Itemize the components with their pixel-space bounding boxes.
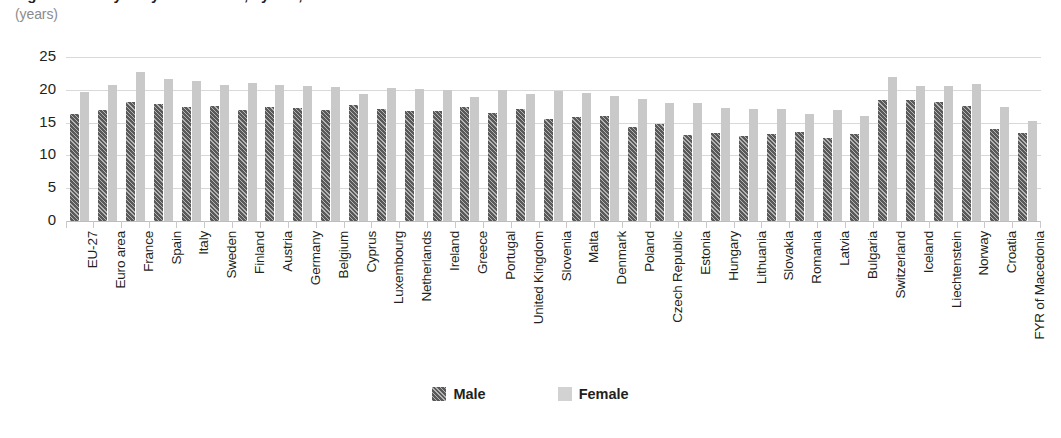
y-axis-tick-label: 0	[12, 211, 56, 228]
bar-male	[544, 119, 553, 221]
x-axis-tick	[735, 221, 763, 228]
bar-male	[767, 134, 776, 221]
bar-group	[1013, 57, 1041, 221]
bar-male	[433, 111, 442, 221]
legend-item-female[interactable]: Female	[558, 386, 629, 402]
bar-group	[400, 57, 428, 221]
x-axis-tick	[846, 221, 874, 228]
bar-female	[387, 88, 396, 221]
bar-group	[289, 57, 317, 221]
bar-male	[126, 102, 135, 221]
x-axis-label-cell: Greece	[456, 231, 484, 376]
y-axis-tick-label: 20	[12, 80, 56, 97]
bar-male	[572, 117, 581, 221]
bar-female	[108, 85, 117, 221]
x-axis-label-cell: United Kingdom	[512, 231, 540, 376]
x-axis-tick	[512, 221, 540, 228]
bar-female	[944, 86, 953, 221]
bar-male	[795, 132, 804, 221]
x-axis-tick	[150, 221, 178, 228]
x-axis-label-cell: Slovakia	[762, 231, 790, 376]
x-axis-label-cell: Finland	[233, 231, 261, 376]
bar-male	[850, 134, 859, 221]
bar-group	[902, 57, 930, 221]
x-axis-label-cell: Czech Republic	[651, 231, 679, 376]
bar-female	[80, 92, 89, 221]
bar-group	[623, 57, 651, 221]
x-axis-label-cell: Portugal	[484, 231, 512, 376]
bar-group	[456, 57, 484, 221]
bar-female	[916, 86, 925, 221]
x-axis-tick	[177, 221, 205, 228]
bar-male	[238, 110, 247, 221]
x-axis-label-cell: Slovenia	[540, 231, 568, 376]
bar-female	[582, 93, 591, 221]
bar-female	[610, 96, 619, 221]
x-axis-label-cell: France	[122, 231, 150, 376]
bar-group	[679, 57, 707, 221]
legend-item-male[interactable]: Male	[432, 386, 485, 402]
bar-group	[567, 57, 595, 221]
x-axis-label-cell: EU-27	[66, 231, 94, 376]
x-axis-tick	[958, 221, 986, 228]
bar-male	[293, 108, 302, 221]
bar-female	[443, 90, 452, 221]
bar-group	[512, 57, 540, 221]
y-axis-tick-label: 10	[12, 145, 56, 162]
bar-female	[860, 116, 869, 221]
bar-female	[749, 109, 758, 221]
bar-male	[349, 105, 358, 221]
bar-group	[651, 57, 679, 221]
bar-female	[164, 79, 173, 221]
x-axis-tick	[567, 221, 595, 228]
x-axis-label-cell: Liechtenstein	[930, 231, 958, 376]
x-axis-label-cell: Norway	[958, 231, 986, 376]
bar-female	[805, 114, 814, 221]
bar-male	[600, 116, 609, 221]
bar-group	[345, 57, 373, 221]
bar-female	[554, 91, 563, 221]
bar-female	[888, 77, 897, 221]
bar-group	[958, 57, 986, 221]
bar-female	[693, 103, 702, 221]
x-axis-tick	[428, 221, 456, 228]
x-axis-tick	[122, 221, 150, 228]
bar-male	[154, 104, 163, 221]
bar-female	[415, 89, 424, 222]
bar-female	[470, 97, 479, 221]
bar-group	[735, 57, 763, 221]
x-axis-ticks	[66, 221, 1041, 228]
bar-group	[484, 57, 512, 221]
x-axis-label-cell: Latvia	[818, 231, 846, 376]
bar-group	[846, 57, 874, 221]
male-hatched-swatch	[432, 387, 446, 401]
bar-female	[303, 86, 312, 221]
x-axis-label-cell: Austria	[261, 231, 289, 376]
x-axis-label-cell: Germany	[289, 231, 317, 376]
x-axis-tick	[484, 221, 512, 228]
x-axis-labels: EU-27Euro areaFranceSpainItalySwedenFinl…	[66, 231, 1041, 376]
bar-male	[1018, 133, 1027, 221]
x-axis-label-cell: Estonia	[679, 231, 707, 376]
x-axis-label-cell: Poland	[623, 231, 651, 376]
bar-group	[540, 57, 568, 221]
bar-male	[460, 107, 469, 221]
x-axis-tick	[345, 221, 373, 228]
bar-group	[707, 57, 735, 221]
x-axis-tick	[400, 221, 428, 228]
x-axis-tick	[679, 221, 707, 228]
x-axis-tick	[790, 221, 818, 228]
x-axis-tick	[1013, 221, 1041, 228]
bar-female	[498, 90, 507, 221]
x-axis-tick-label: FYR of Macedonia	[1032, 231, 1047, 340]
x-axis-tick	[289, 221, 317, 228]
x-axis-tick	[317, 221, 345, 228]
bar-female	[248, 83, 257, 221]
bar-female	[526, 94, 535, 221]
x-axis-tick	[874, 221, 902, 228]
x-axis-label-cell: Cyprus	[345, 231, 373, 376]
x-axis-tick	[985, 221, 1013, 228]
y-axis-tick-label: 25	[12, 47, 56, 64]
x-axis-label-cell: Euro area	[94, 231, 122, 376]
x-axis-tick	[540, 221, 568, 228]
